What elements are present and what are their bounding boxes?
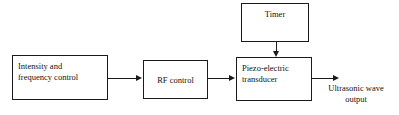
- block-rf-control[interactable]: RF control: [143, 60, 208, 99]
- block-intensity-frequency-control-label: Intensity and frequency control: [18, 61, 78, 83]
- block-timer[interactable]: Timer: [241, 3, 309, 42]
- block-piezo-electric-transducer-label: Piezo-electric transducer: [242, 63, 289, 85]
- connector-intensity-to-rf-arrowhead-icon: [136, 75, 142, 81]
- label-ultrasonic-wave-output: Ultrasonic wave output: [316, 83, 396, 105]
- connector-intensity-to-rf-line: [108, 78, 137, 79]
- block-diagram: Intensity and frequency control RF contr…: [0, 0, 399, 115]
- block-piezo-electric-transducer[interactable]: Piezo-electric transducer: [236, 57, 312, 101]
- block-timer-label: Timer: [242, 9, 308, 20]
- connector-transducer-to-output-arrowhead-icon: [333, 75, 339, 81]
- connector-rf-to-transducer-line: [208, 78, 230, 79]
- connector-rf-to-transducer-arrowhead-icon: [229, 75, 235, 81]
- block-rf-control-label: RF control: [144, 74, 207, 85]
- block-intensity-frequency-control[interactable]: Intensity and frequency control: [12, 55, 108, 100]
- connector-transducer-to-output-line: [312, 78, 334, 79]
